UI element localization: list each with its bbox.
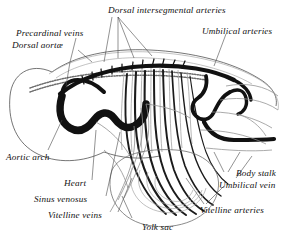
label-yolk-sac: Yolk sac: [142, 222, 173, 232]
label-vitelline-arteries: Vitelline arteries: [200, 205, 264, 215]
label-precardinal-veins: Precardinal veins: [16, 28, 83, 38]
label-umbilical-arteries: Umbilical arteries: [202, 26, 272, 36]
label-sinus-venosus: Sinus venosus: [34, 194, 87, 204]
embryo-circulation-figure: Precardinal veins Dorsal aortæ Dorsal in…: [0, 0, 293, 238]
label-vitelline-veins: Vitelline veins: [48, 210, 102, 220]
label-body-stalk: Body stalk: [236, 168, 276, 178]
umbilical-vein: [204, 122, 274, 140]
label-aortic-arch: Aortic arch: [6, 152, 49, 162]
label-umbilical-vein: Umbilical vein: [219, 180, 275, 190]
yolk-sac: [110, 150, 219, 227]
label-dorsal-intersegmental-arteries: Dorsal intersegmental arteries: [108, 5, 226, 15]
heart: [60, 96, 146, 130]
label-heart: Heart: [64, 178, 86, 188]
label-dorsal-aortae: Dorsal aortæ: [12, 40, 63, 50]
precardinal-vein: [30, 71, 206, 92]
